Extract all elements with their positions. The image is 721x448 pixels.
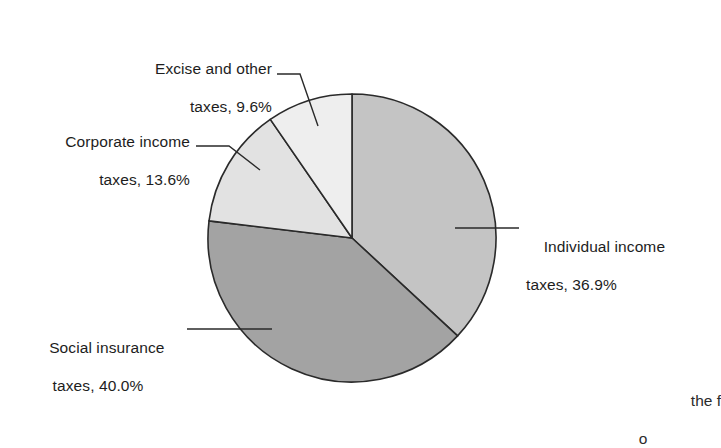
pie-label-individual-income-taxes-line2: taxes, 36.9% xyxy=(526,275,716,294)
pie-label-corporate-income-taxes: Corporate income taxes, 13.6% xyxy=(0,113,190,227)
truncated-caption-fragment: the f o xyxy=(591,372,721,448)
truncated-caption-line2: o xyxy=(591,429,721,448)
pie-label-corporate-income-taxes-line2: taxes, 13.6% xyxy=(0,170,190,189)
pie-label-excise-and-other-taxes-line1: Excise and other xyxy=(155,60,272,77)
pie-label-social-insurance-taxes: Social insurance taxes, 40.0% xyxy=(18,319,178,433)
pie-label-social-insurance-taxes-line1: Social insurance xyxy=(49,339,164,356)
pie-label-individual-income-taxes: Individual income taxes, 36.9% xyxy=(526,218,716,332)
truncated-caption-line1: the f xyxy=(691,392,721,409)
pie-label-individual-income-taxes-line1: Individual income xyxy=(544,238,665,255)
pie-label-corporate-income-taxes-line1: Corporate income xyxy=(65,133,190,150)
pie-label-social-insurance-taxes-line2: taxes, 40.0% xyxy=(18,376,178,395)
